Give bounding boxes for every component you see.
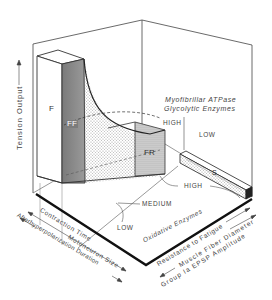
back-high-label: HIGH xyxy=(163,120,182,127)
motor-unit-diagram: F FF FR S Tension Output Myofibrillar AT… xyxy=(0,0,272,300)
back-low-label: LOW xyxy=(199,132,216,139)
tension-output-label: Tension Output xyxy=(16,86,24,150)
diagram-canvas xyxy=(0,0,272,300)
tension-axis-arrow xyxy=(17,60,21,85)
glycolytic-enzymes-label: Glycolytic Enzymes xyxy=(164,105,235,112)
oxidative-low-label: LOW xyxy=(117,225,134,232)
oxidative-medium-label: MEDIUM xyxy=(142,201,172,208)
label-ff: FF xyxy=(66,120,78,128)
label-s: S xyxy=(212,169,217,176)
label-fr: FR xyxy=(144,149,155,157)
label-f: F xyxy=(49,105,54,113)
myofibrillar-atpase-label: Myofibrillar ATPase xyxy=(165,96,236,103)
oxidative-high-label: HIGH xyxy=(184,183,203,190)
